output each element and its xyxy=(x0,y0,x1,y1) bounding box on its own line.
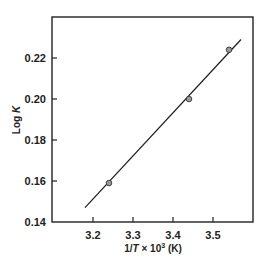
plot-frame xyxy=(52,17,253,222)
y-tick-label: 0.20 xyxy=(25,93,46,105)
y-tick-label: 0.18 xyxy=(25,134,46,146)
y-axis-label: Log K xyxy=(11,105,22,134)
data-point-marker xyxy=(226,47,232,53)
x-tick-label: 3.4 xyxy=(165,229,181,241)
x-tick-label: 3.3 xyxy=(125,229,140,241)
log-k-vs-inverse-temperature-chart: 0.140.160.180.200.223.23.33.43.5 Log K 1… xyxy=(0,0,268,265)
y-tick-label: 0.16 xyxy=(25,175,46,187)
y-tick-label: 0.14 xyxy=(25,216,47,228)
data-point-marker xyxy=(106,180,112,186)
x-axis-label: 1/T × 103 (K) xyxy=(124,242,182,254)
data-point-marker xyxy=(186,96,192,102)
y-tick-label: 0.22 xyxy=(25,52,46,64)
x-tick-label: 3.2 xyxy=(85,229,100,241)
axis-ticks: 0.140.160.180.200.223.23.33.43.5 xyxy=(25,52,221,241)
x-tick-label: 3.5 xyxy=(205,229,220,241)
